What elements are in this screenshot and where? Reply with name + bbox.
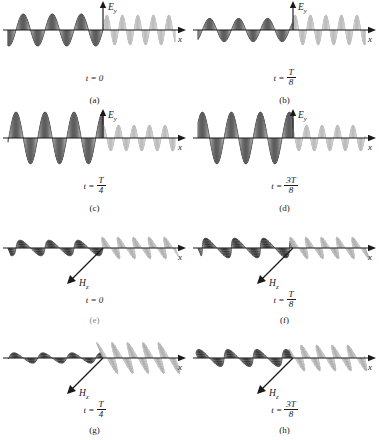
- x-axis-label: x: [367, 34, 372, 44]
- panel-e: xHz t = 0 (e): [0, 218, 189, 328]
- x-axis-label: x: [177, 252, 182, 262]
- panel-h-letter: (h): [190, 425, 379, 435]
- x-axis-label: x: [367, 252, 372, 262]
- panel-a-plot: xEy: [0, 0, 189, 72]
- panel-b-fraction: T 8: [287, 68, 296, 88]
- h-field-axis-label: Hz: [78, 388, 89, 400]
- panel-c-plot: xEy: [0, 108, 189, 180]
- e-axis-arrowhead: [290, 109, 296, 116]
- x-axis-label: x: [177, 142, 182, 152]
- x-axis-arrowhead: [178, 135, 186, 141]
- x-axis-arrowhead: [368, 135, 376, 141]
- panel-d-letter: (d): [190, 203, 379, 213]
- panel-a-letter: (a): [0, 95, 189, 105]
- panel-e-time-label: t = 0: [0, 296, 189, 305]
- panel-f-plot: xHz: [190, 218, 379, 290]
- x-axis-arrowhead: [368, 245, 376, 251]
- panel-f: xHz t = T 8 (f): [190, 218, 379, 328]
- e-field-axis-label: Ey: [297, 2, 308, 14]
- panel-b-plot: xEy: [190, 0, 379, 72]
- figure-electromagnetic-wave-snapshots: xEy t = 0 (a) xEy t = T 8 (b) xEy t = T …: [0, 0, 379, 440]
- panel-a-time-label: t = 0: [0, 74, 189, 83]
- h-field-axis-label: Hz: [268, 388, 279, 400]
- panel-b-letter: (b): [190, 95, 379, 105]
- x-axis-label: x: [177, 34, 182, 44]
- panel-d-plot: xEy: [190, 108, 379, 180]
- panel-h-plot: xHz: [190, 328, 379, 400]
- x-axis-arrowhead: [178, 27, 186, 33]
- panel-a: xEy t = 0 (a): [0, 0, 189, 110]
- e-field-axis-label: Ey: [107, 2, 118, 14]
- x-axis-arrowhead: [368, 27, 376, 33]
- x-axis-arrowhead: [178, 245, 186, 251]
- panel-d-fraction: 3T 8: [284, 176, 298, 196]
- panel-f-time-label: t = T 8: [190, 291, 379, 311]
- e-axis-arrowhead: [100, 1, 106, 8]
- panel-h-time-label: t = 3T 8: [190, 401, 379, 421]
- e-field-axis-label: Ey: [107, 110, 118, 122]
- x-axis-label: x: [367, 142, 372, 152]
- panel-e-letter: (e): [0, 315, 189, 325]
- panel-c: xEy t = T 4 (c): [0, 108, 189, 218]
- panel-h-fraction: 3T 8: [284, 400, 298, 420]
- panel-g-time-label: t = T 4: [0, 401, 189, 421]
- panel-g: xHz t = T 4 (g): [0, 328, 189, 438]
- e-field-axis-label: Ey: [297, 110, 308, 122]
- panel-f-letter: (f): [190, 315, 379, 325]
- panel-g-letter: (g): [0, 425, 189, 435]
- x-axis-arrowhead: [178, 355, 186, 361]
- e-axis-arrowhead: [100, 109, 106, 116]
- x-axis-label: x: [367, 362, 372, 372]
- e-axis-arrowhead: [290, 1, 296, 8]
- panel-b-time-label: t = T 8: [190, 69, 379, 89]
- panel-g-fraction: T 4: [97, 400, 106, 420]
- panel-c-fraction: T 4: [97, 176, 106, 196]
- panel-f-fraction: T 8: [287, 290, 296, 310]
- h-field-axis-label: Hz: [78, 278, 89, 290]
- panel-b: xEy t = T 8 (b): [190, 0, 379, 110]
- panel-d-time-label: t = 3T 8: [190, 177, 379, 197]
- panel-e-plot: xHz: [0, 218, 189, 290]
- h-field-axis-label: Hz: [268, 278, 279, 290]
- panel-c-letter: (c): [0, 203, 189, 213]
- panel-c-time-label: t = T 4: [0, 177, 189, 197]
- x-axis-label: x: [177, 362, 182, 372]
- x-axis-arrowhead: [368, 355, 376, 361]
- panel-d: xEy t = 3T 8 (d): [190, 108, 379, 218]
- panel-h: xHz t = 3T 8 (h): [190, 328, 379, 438]
- panel-g-plot: xHz: [0, 328, 189, 400]
